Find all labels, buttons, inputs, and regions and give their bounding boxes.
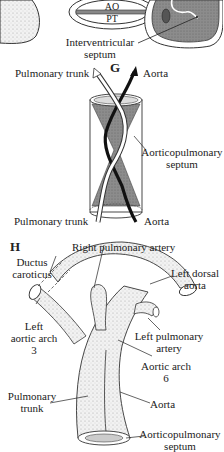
label-h-left-dorsal-aorta: Left dorsal aorta <box>166 267 224 291</box>
label-h-pulmonary-trunk: Pulmonary trunk <box>6 390 58 414</box>
panel-letter-g: G <box>110 60 120 76</box>
oval-label-ao: AO <box>102 1 122 13</box>
label-g-aorta-bottom: Aorta <box>144 215 169 227</box>
label-h-ductus-caroticus: Ductus caroticus <box>8 256 56 280</box>
label-h-aorticopulmonary-septum: Aorticopulmonary septum <box>138 428 222 452</box>
label-h-aortic-arch-6: Aortic arch 6 <box>136 360 196 384</box>
label-h-left-pulmonary-artery: Left pulmonary artery <box>134 330 204 354</box>
top-left-heart-fragment <box>0 0 39 43</box>
label-h-aorta: Aorta <box>150 398 175 410</box>
label-h-right-pulmonary-artery: Right pulmonary artery <box>72 241 175 253</box>
oval-label-pt: PT <box>102 13 122 25</box>
panel-g-cylinder <box>90 66 146 222</box>
label-g-pulmonary-trunk-top: Pulmonary trunk <box>15 67 89 79</box>
top-right-heart-section <box>138 0 223 48</box>
label-interventricular-septum: Interventricular septum <box>58 36 142 60</box>
label-h-left-aortic-arch-3: Left aortic arch 3 <box>6 320 62 356</box>
label-g-aorta-top: Aorta <box>143 67 168 79</box>
label-g-aorticopulmonary-septum: Aorticopulmonary septum <box>140 146 224 170</box>
panel-letter-h: H <box>10 239 20 255</box>
label-g-pulmonary-trunk-bottom: Pulmonary trunk <box>14 215 88 227</box>
